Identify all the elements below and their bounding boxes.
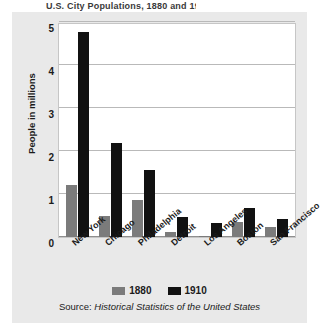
bar-1910 [78,32,89,237]
legend-item: 1910 [168,285,207,296]
bar-groups [59,24,295,237]
legend-label: 1880 [129,285,151,296]
legend-item: 1880 [112,285,151,296]
y-axis-tick-labels: 012345 [34,23,54,238]
source-note: Source: Historical Statistics of the Uni… [12,301,307,312]
source-label: Source: [59,301,92,312]
cut-off-caption: U.S. City Populations, 1880 and 1910 [46,1,196,13]
bar-1910 [111,143,122,237]
bar-1880 [132,200,143,237]
legend-swatch-icon [168,287,181,295]
source-title: Historical Statistics of the United Stat… [94,301,260,312]
bar-group [66,32,89,237]
chart-legend: 18801910 [12,285,307,296]
legend-swatch-icon [112,287,125,295]
gridline [59,21,295,22]
legend-label: 1910 [185,285,207,296]
figure-card: U.S. City Populations, 1880 and 1910 Peo… [12,12,307,323]
bar-1880 [66,185,77,237]
